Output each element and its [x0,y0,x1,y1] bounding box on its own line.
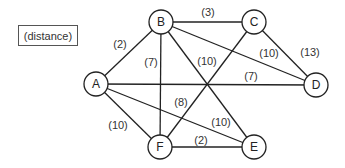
edge-b-f [160,22,161,147]
edge-weight-b-d: (10) [259,47,279,59]
edge-weight-f-e: (2) [194,134,207,146]
edges-layer [96,22,316,147]
edge-weight-a-d: (7) [244,70,257,82]
edge-a-f [96,84,160,147]
node-e: E [242,135,266,159]
weighted-graph: (2)(3)(13)(10)(7)(7)(10)(8)(10)(10)(2) A… [0,0,345,168]
edge-weight-b-f: (7) [144,56,157,68]
node-label: F [156,140,163,154]
node-label: C [250,15,259,29]
node-label: D [312,78,321,92]
node-a: A [84,72,108,96]
edge-weight-c-f: (8) [174,96,187,108]
edge-weight-c-d: (13) [300,46,320,58]
edge-weight-a-b: (2) [113,38,126,50]
edge-a-b [96,22,161,84]
edge-weight-a-f: (10) [108,119,128,131]
edge-weight-b-e: (10) [197,55,217,67]
node-c: C [242,10,266,34]
node-label: B [157,15,165,29]
node-label: E [250,140,258,154]
edge-weight-b-c: (3) [201,6,214,18]
node-f: F [148,135,172,159]
node-label: A [92,77,100,91]
node-d: D [304,73,328,97]
node-b: B [149,10,173,34]
edge-weight-a-e: (10) [211,116,231,128]
